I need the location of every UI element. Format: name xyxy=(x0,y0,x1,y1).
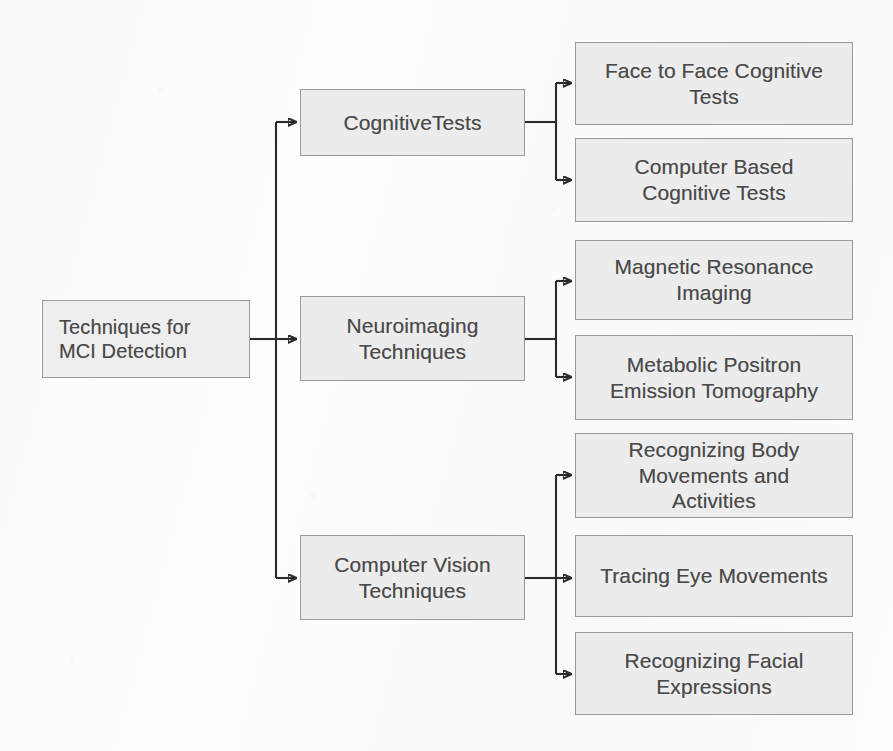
node-label: Computer Based Cognitive Tests xyxy=(629,154,800,205)
node-magnetic-resonance-imaging[interactable]: Magnetic Resonance Imaging xyxy=(575,240,853,320)
diagram-canvas: Techniques for MCI Detection CognitiveTe… xyxy=(0,0,893,751)
node-tracing-eye-movements[interactable]: Tracing Eye Movements xyxy=(575,535,853,617)
node-label: Techniques for MCI Detection xyxy=(43,315,196,364)
node-neuroimaging-techniques[interactable]: Neuroimaging Techniques xyxy=(300,296,525,381)
node-label: Recognizing Body Movements and Activitie… xyxy=(623,437,806,514)
node-recognizing-facial-expressions[interactable]: Recognizing Facial Expressions xyxy=(575,632,853,715)
node-label: Magnetic Resonance Imaging xyxy=(608,254,819,305)
node-label: CognitiveTests xyxy=(338,110,488,136)
node-techniques-for-mci-detection[interactable]: Techniques for MCI Detection xyxy=(42,300,250,378)
node-label: Face to Face Cognitive Tests xyxy=(599,58,829,109)
node-label: Computer Vision Techniques xyxy=(328,552,496,603)
node-label: Neuroimaging Techniques xyxy=(341,313,485,364)
node-label: Tracing Eye Movements xyxy=(594,563,834,589)
node-computer-vision-techniques[interactable]: Computer Vision Techniques xyxy=(300,535,525,620)
node-metabolic-positron-emission-tomography[interactable]: Metabolic Positron Emission Tomography xyxy=(575,335,853,420)
node-label: Metabolic Positron Emission Tomography xyxy=(604,352,824,403)
node-cognitive-tests[interactable]: CognitiveTests xyxy=(300,89,525,156)
node-computer-based-cognitive-tests[interactable]: Computer Based Cognitive Tests xyxy=(575,138,853,222)
node-face-to-face-cognitive-tests[interactable]: Face to Face Cognitive Tests xyxy=(575,42,853,125)
node-recognizing-body-movements-and-activities[interactable]: Recognizing Body Movements and Activitie… xyxy=(575,433,853,518)
node-label: Recognizing Facial Expressions xyxy=(618,648,809,699)
